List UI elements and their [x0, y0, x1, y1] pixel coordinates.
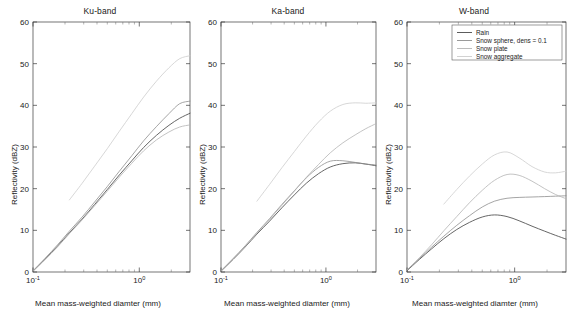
y-tick-label: 40: [20, 101, 29, 110]
y-tick-label: 50: [394, 60, 403, 69]
y-tick-label: 50: [20, 60, 29, 69]
panel-ku-band: Ku-band Reflectivity (dBZ) 0102030405060…: [0, 0, 196, 312]
y-tick-label: 10: [20, 226, 29, 235]
plot-frame: [33, 22, 190, 272]
y-tick-label: 60: [208, 18, 217, 27]
y-tick-label: 10: [208, 226, 217, 235]
plot-area-w-band: 010203040506010-1100RainSnow sphere, den…: [378, 0, 572, 312]
y-tick-label: 60: [20, 18, 29, 27]
y-tick-label: 60: [394, 18, 403, 27]
panel-ka-band: Ka-band Reflectivity (dBZ) 0102030405060…: [192, 0, 382, 312]
y-tick-label: 30: [20, 143, 29, 152]
y-tick-label: 40: [394, 101, 403, 110]
y-tick-label: 40: [208, 101, 217, 110]
x-axis-label: Mean mass-weighted diamter (mm): [0, 299, 196, 308]
figure-container: Ku-band Reflectivity (dBZ) 0102030405060…: [0, 0, 572, 312]
x-tick-label: 100: [509, 275, 521, 285]
plot-area-ka-band: 010203040506010-1100: [192, 0, 382, 312]
x-tick-label: 10-1: [400, 275, 414, 285]
x-tick-label: 100: [320, 275, 332, 285]
y-tick-label: 30: [208, 143, 217, 152]
plot-area-ku-band: 010203040506010-1100: [0, 0, 196, 312]
x-axis-label: Mean mass-weighted diamter (mm): [378, 299, 572, 308]
legend-label: Snow plate: [476, 45, 508, 53]
y-tick-label: 10: [394, 226, 403, 235]
legend-label: Snow aggregate: [476, 53, 523, 61]
x-tick-label: 100: [133, 275, 145, 285]
panel-w-band: W-band Reflectivity (dBZ) 01020304050601…: [378, 0, 572, 312]
y-tick-label: 20: [20, 185, 29, 194]
y-tick-label: 30: [394, 143, 403, 152]
y-tick-label: 20: [394, 185, 403, 194]
y-tick-label: 20: [208, 185, 217, 194]
y-tick-label: 50: [208, 60, 217, 69]
x-axis-label: Mean mass-weighted diamter (mm): [192, 299, 382, 308]
legend-label: Rain: [476, 29, 490, 36]
plot-frame: [221, 22, 376, 272]
x-tick-label: 10-1: [214, 275, 228, 285]
legend-label: Snow sphere, dens = 0.1: [476, 37, 547, 45]
x-tick-label: 10-1: [26, 275, 40, 285]
